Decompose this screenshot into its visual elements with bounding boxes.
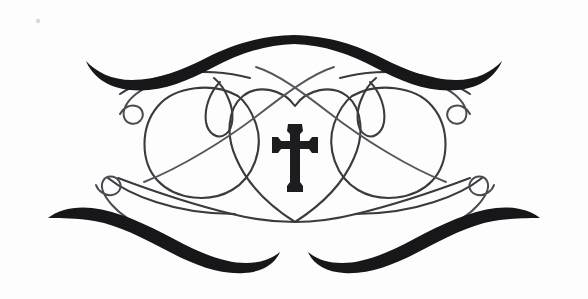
ornament-canvas: Symmetrical black ink calligraphic flour… bbox=[0, 0, 588, 299]
paper-speck bbox=[36, 19, 40, 23]
ornament-illustration: Calligraphic flourish ornament with cros… bbox=[0, 0, 588, 299]
